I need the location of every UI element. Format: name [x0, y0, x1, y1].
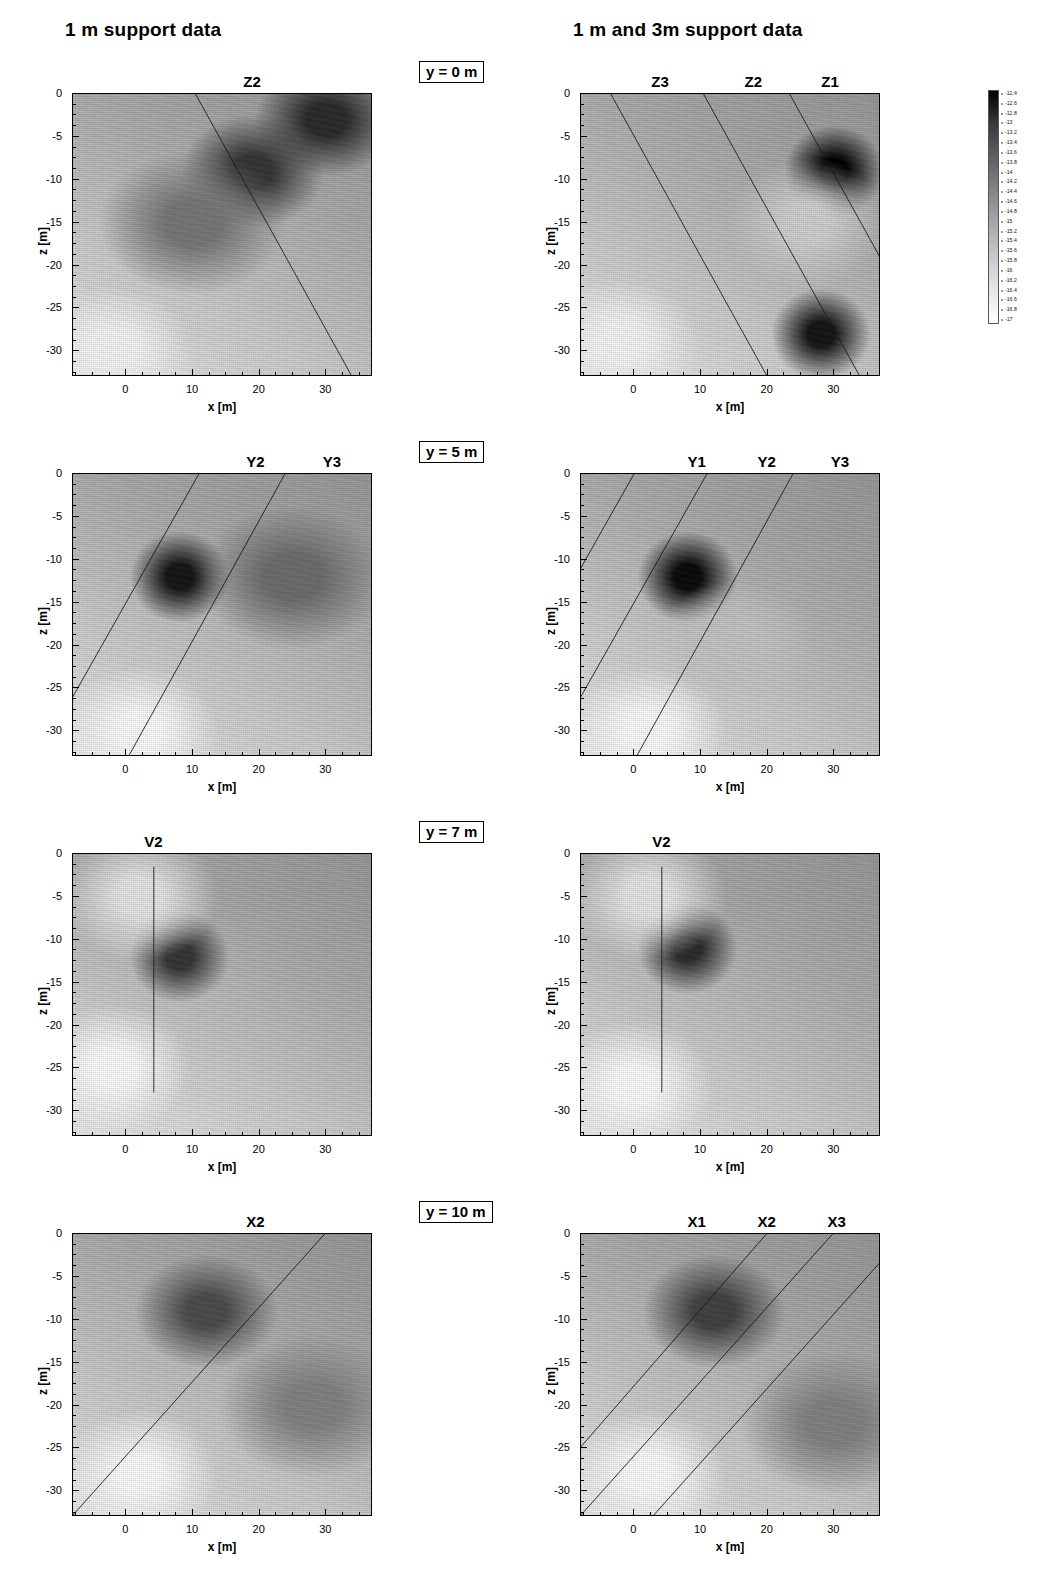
colorbar-tick-label: -15.8: [1005, 258, 1017, 263]
x-tick-minor: [750, 1512, 751, 1516]
y-tick-mark: [580, 687, 587, 688]
y-tick-minor: [72, 1265, 76, 1266]
x-tick-minor: [617, 1132, 618, 1136]
y-tick-mark: [72, 1110, 79, 1111]
x-tick-minor: [800, 752, 801, 756]
y-tick-label: 0: [564, 847, 570, 859]
colorbar-tick-mark: [1001, 300, 1003, 301]
y-tick-minor: [72, 655, 76, 656]
y-tick-minor: [72, 361, 76, 362]
x-tick-minor: [292, 372, 293, 376]
colorbar-tick-mark: [1001, 251, 1003, 252]
y-tick-minor: [72, 720, 76, 721]
x-tick-mark: [700, 1509, 701, 1516]
borehole-line-X1: [581, 1234, 766, 1515]
contour-panel-right-row2: V20-5-10-15-20-25-300102030x [m]z [m]: [522, 835, 888, 1165]
x-tick-mark: [325, 369, 326, 376]
y-tick-mark: [72, 939, 79, 940]
y-tick-minor: [580, 874, 584, 875]
y-tick-minor: [72, 232, 76, 233]
x-tick-minor: [342, 1512, 343, 1516]
y-tick-minor: [580, 548, 584, 549]
borehole-line-Y1: [581, 474, 634, 755]
x-tick-minor: [817, 752, 818, 756]
x-tick-label: 0: [122, 1523, 128, 1535]
contour-panel-right-row3: X1X2X30-5-10-15-20-25-300102030x [m]z [m…: [522, 1215, 888, 1545]
x-tick-minor: [142, 1512, 143, 1516]
y-tick-mark: [580, 896, 587, 897]
y-tick-minor: [72, 1121, 76, 1122]
y-tick-label: -25: [554, 301, 570, 313]
colorbar-tick-label: -14.8: [1005, 209, 1017, 214]
y-tick-mark: [580, 473, 587, 474]
x-tick-mark: [633, 1129, 634, 1136]
y-tick-mark: [580, 645, 587, 646]
y-tick-minor: [72, 1254, 76, 1255]
contour-panel-left-row0: Z20-5-10-15-20-25-300102030x [m]z [m]: [14, 75, 380, 405]
x-tick-label: 0: [122, 1143, 128, 1155]
colorbar-tick-mark: [1001, 280, 1003, 281]
x-tick-mark: [259, 369, 260, 376]
x-tick-minor: [800, 372, 801, 376]
y-tick-minor: [580, 591, 584, 592]
x-tick-minor: [733, 372, 734, 376]
y-tick-label: -10: [46, 933, 62, 945]
x-tick-mark: [259, 1129, 260, 1136]
x-tick-minor: [75, 752, 76, 756]
y-tick-label: -10: [46, 553, 62, 565]
y-tick-minor: [580, 960, 584, 961]
x-tick-label: 30: [827, 763, 839, 775]
y-tick-minor: [72, 147, 76, 148]
y-tick-minor: [580, 709, 584, 710]
colorbar-tick-mark: [1001, 261, 1003, 262]
x-tick-minor: [783, 372, 784, 376]
y-tick-mark: [72, 1067, 79, 1068]
x-tick-minor: [242, 1512, 243, 1516]
borehole-traces: [73, 1234, 371, 1515]
x-tick-minor: [867, 752, 868, 756]
y-tick-minor: [72, 1458, 76, 1459]
x-tick-label: 10: [694, 1523, 706, 1535]
colorbar-tick-mark: [1001, 221, 1003, 222]
borehole-traces: [73, 474, 371, 755]
x-tick-label: 30: [319, 1143, 331, 1155]
y-tick-minor: [580, 1035, 584, 1036]
y-tick-mark: [580, 222, 587, 223]
borehole-traces: [581, 854, 879, 1135]
y-tick-label: -30: [46, 724, 62, 736]
y-tick-minor: [580, 677, 584, 678]
x-tick-minor: [667, 752, 668, 756]
y-tick-minor: [72, 125, 76, 126]
x-tick-mark: [125, 369, 126, 376]
y-tick-minor: [72, 677, 76, 678]
y-tick-mark: [580, 1067, 587, 1068]
y-tick-mark: [72, 1025, 79, 1026]
y-tick-minor: [580, 211, 584, 212]
x-axis-title: x [m]: [72, 400, 372, 414]
colorbar-tick-label: -17: [1005, 317, 1013, 322]
y-axis-title: z [m]: [36, 987, 50, 1015]
y-tick-mark: [580, 1405, 587, 1406]
y-tick-label: -30: [46, 1484, 62, 1496]
y-tick-label: -30: [554, 1484, 570, 1496]
y-tick-minor: [72, 1046, 76, 1047]
y-tick-minor: [580, 1437, 584, 1438]
colorbar-tick-label: -16.8: [1005, 308, 1017, 313]
y-tick-label: -25: [554, 1441, 570, 1453]
y-tick-minor: [72, 318, 76, 319]
x-tick-minor: [583, 1132, 584, 1136]
x-tick-label: 30: [827, 1523, 839, 1535]
y-tick-minor: [72, 114, 76, 115]
x-tick-mark: [325, 1509, 326, 1516]
y-tick-minor: [72, 286, 76, 287]
plot-area: [580, 93, 880, 376]
x-tick-mark: [125, 749, 126, 756]
x-tick-minor: [359, 1132, 360, 1136]
y-axis-title: z [m]: [544, 1367, 558, 1395]
slice-annotation-row2: y = 7 m: [419, 821, 484, 843]
x-axis-title: x [m]: [72, 1160, 372, 1174]
y-tick-minor: [72, 1287, 76, 1288]
y-tick-mark: [72, 687, 79, 688]
y-tick-label: 0: [56, 87, 62, 99]
y-tick-minor: [580, 666, 584, 667]
